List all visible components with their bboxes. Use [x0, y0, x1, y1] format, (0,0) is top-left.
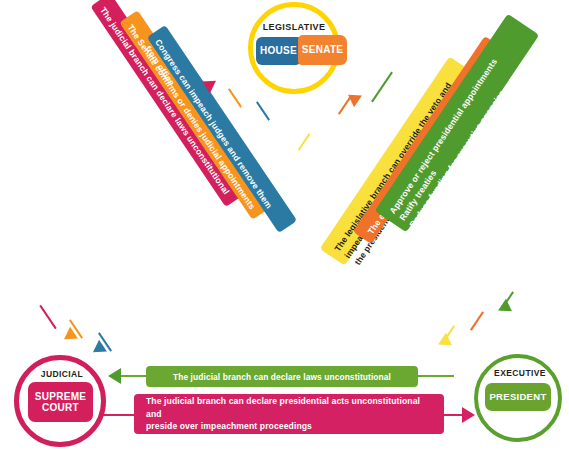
stem-yellow-top: [298, 133, 311, 151]
legislative-title: LEGISLATIVE: [240, 22, 348, 32]
arrowhead-green-down: [498, 299, 516, 317]
bar-label-line2: preside over impeachment proceedings: [146, 421, 312, 431]
node-executive[interactable]: EXECUTIVE PRESIDENT: [472, 352, 568, 446]
stem-blue-top: [256, 101, 270, 120]
bar-label: The judicial branch can declare laws unc…: [173, 372, 391, 382]
node-judicial[interactable]: JUDICIAL SUPREME COURT: [12, 355, 112, 447]
ribbon-senate-powers-over-executive: Approve or reject presidential appointme…: [375, 14, 540, 233]
bar-label-line1: The judicial branch can declare presiden…: [146, 396, 420, 419]
bar-judicial-declare-laws-unconstitutional: The judicial branch can declare laws unc…: [146, 366, 418, 387]
judicial-supreme-court-pill[interactable]: SUPREME COURT: [28, 382, 93, 422]
executive-president-pill[interactable]: PRESIDENT: [485, 383, 551, 411]
ribbon-label-line3: Reduce funding for executive agencies: [407, 39, 541, 230]
senate-label: SENATE: [302, 44, 344, 55]
supreme-label: SUPREME: [35, 391, 87, 402]
stem-orange2-bottom: [470, 311, 484, 330]
arrowhead-yellow-down: [438, 333, 456, 351]
stem-pink: [39, 305, 56, 329]
checks-and-balances-diagram: The judicial branch can declare laws unc…: [0, 0, 569, 450]
executive-title: EXECUTIVE: [472, 368, 568, 378]
legislative-house-pill[interactable]: HOUSE: [256, 37, 301, 65]
legislative-senate-pill[interactable]: SENATE: [298, 35, 347, 65]
stem-green-top: [371, 72, 393, 103]
court-label: COURT: [42, 402, 79, 413]
bar-judicial-declare-presidential-acts-unconstitutional: The judicial branch can declare presiden…: [134, 394, 444, 434]
judicial-title: JUDICIAL: [12, 369, 112, 379]
president-label: PRESIDENT: [489, 392, 546, 403]
house-label: HOUSE: [260, 45, 297, 56]
line-green-bar-right: [414, 375, 454, 377]
node-legislative[interactable]: LEGISLATIVE HOUSE SENATE: [240, 2, 348, 94]
